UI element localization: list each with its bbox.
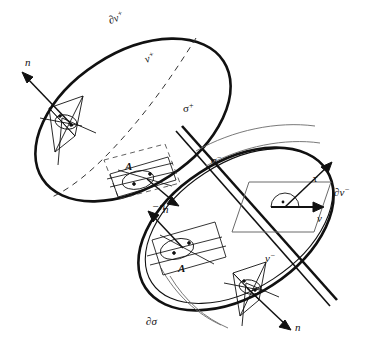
lower-ellipse-outline <box>109 114 363 344</box>
label-point-A-lower: A <box>177 262 185 274</box>
normal-vector-upper-left <box>22 72 73 126</box>
boundary-minus-text: ∂v <box>334 186 344 198</box>
label-nu: ν <box>317 212 322 224</box>
svg-text:v−: v− <box>265 251 275 264</box>
nu-origin-dot <box>282 201 285 204</box>
label-point-A-upper: A <box>124 160 132 172</box>
interface-edge-outer <box>182 126 337 300</box>
lower-plane-right-angle-dot <box>188 242 191 245</box>
lower-ellipse-group <box>109 114 363 344</box>
upper-plane-center-dot <box>133 183 136 186</box>
label-normal-middle-lower: n <box>163 203 169 215</box>
svg-text:v+: v+ <box>143 49 157 65</box>
lower-plane-element <box>147 222 226 275</box>
boundary-minus-sup: − <box>344 185 349 194</box>
label-normal-lower-right: n <box>295 321 301 333</box>
figure-root: ∂v+ v+ σ+ σ− ∂v− <box>0 0 369 355</box>
nu-angle-arc <box>271 193 299 207</box>
upper-plane-right-angle-dot <box>149 173 152 176</box>
label-volume-plus: v+ <box>143 49 157 65</box>
lower-tetra-right-angle-dot-2 <box>254 289 257 292</box>
upper-ellipse-group <box>6 5 260 235</box>
normal-vector-lower-right <box>247 288 291 330</box>
upper-tetra-right-angle-dot-1 <box>59 115 62 118</box>
lower-plane-center-dot <box>173 252 176 255</box>
sigma-plus-sup: + <box>189 101 194 110</box>
upper-tetra-angle-arc <box>54 113 78 131</box>
lower-tetrahedron-inset <box>224 262 279 326</box>
label-boundary-minus: ∂v− <box>334 185 350 198</box>
n-upper-left-head <box>22 72 33 83</box>
label-boundary-sigma: ∂σ <box>146 315 157 327</box>
svg-text:∂v+: ∂v+ <box>106 8 125 26</box>
lower-tetra-right-angle-dot-1 <box>243 280 246 283</box>
label-normal-upper-left: n <box>25 56 31 68</box>
volume-minus-sup: − <box>270 251 275 260</box>
tau-shaft <box>285 167 327 207</box>
sigma-minus-sup: − <box>217 153 222 162</box>
upper-tetrahedron-inset <box>40 96 96 165</box>
n-lower-right-head <box>279 320 291 330</box>
n-lower-right-shaft <box>247 288 285 324</box>
label-sigma-plus: σ+ <box>183 101 194 114</box>
label-tau: τ <box>313 172 318 184</box>
diagram-canvas: ∂v+ v+ σ+ σ− ∂v− <box>0 0 369 355</box>
svg-text:∂v−: ∂v− <box>334 185 350 198</box>
upper-ellipse-outline <box>6 5 260 235</box>
boundary-sigma-text: ∂σ <box>146 315 157 327</box>
upper-tetra-stem <box>58 118 62 165</box>
interface-edge-inner <box>176 131 330 306</box>
n-upper-left-shaft <box>26 77 73 126</box>
nu-head <box>313 202 324 212</box>
label-boundary-plus: ∂v+ <box>106 8 125 26</box>
label-volume-minus: v− <box>265 251 275 264</box>
svg-text:σ+: σ+ <box>183 101 194 114</box>
lower-plane-cross-line-1 <box>147 237 222 256</box>
interface-edge-group <box>176 126 337 306</box>
